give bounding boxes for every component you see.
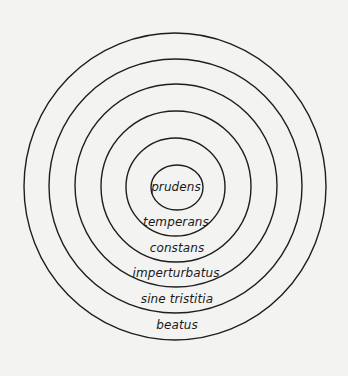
label-constans: constans — [150, 242, 205, 254]
concentric-virtue-diagram: prudens temperans constans imperturbatus… — [0, 0, 348, 376]
label-imperturbatus: imperturbatus — [132, 267, 219, 279]
label-temperans: temperans — [143, 216, 209, 228]
label-sine-tristitia: sine tristitia — [141, 293, 213, 305]
label-beatus: beatus — [156, 319, 198, 331]
label-prudens: prudens — [151, 181, 201, 193]
